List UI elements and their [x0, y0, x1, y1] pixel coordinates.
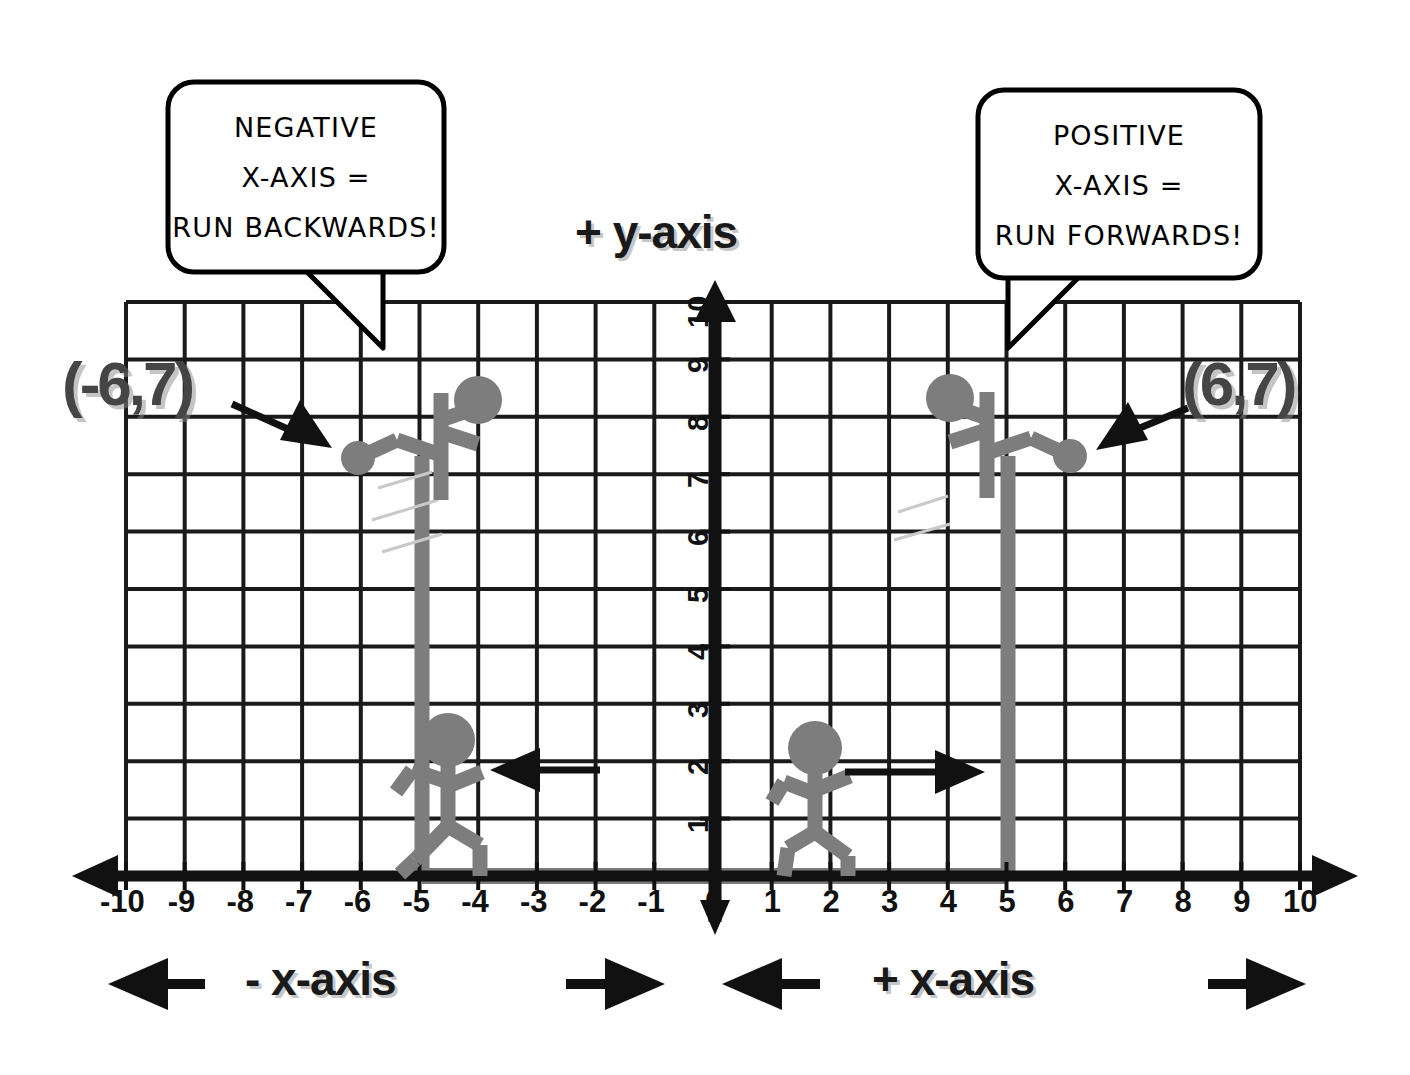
negative-x-axis-title: - x-axis — [245, 952, 396, 1006]
left-point-label: (-6,7) — [62, 348, 192, 419]
left-label-pointer-head — [280, 400, 332, 448]
y-tick-label: 10 — [682, 296, 715, 328]
x-tick-label: -5 — [403, 884, 431, 920]
x-tick-label: -9 — [168, 884, 196, 920]
y-axis-title: + y-axis — [575, 205, 737, 259]
y-tick-label: 3 — [682, 702, 715, 718]
x-tick-label: 4 — [940, 884, 957, 920]
y-tick-label: 7 — [682, 472, 715, 488]
y-tick-label: 9 — [682, 357, 715, 373]
x-tick-label: 3 — [881, 884, 898, 920]
x-tick-label: 0 — [705, 884, 722, 920]
x-tick-label: 1 — [764, 884, 781, 920]
y-tick-label: 5 — [682, 587, 715, 603]
positive-bubble[interactable]: POSITIVE X-AXIS = RUN FORWARDS! — [978, 90, 1260, 348]
x-tick-label: 10 — [1283, 884, 1317, 920]
positive-bubble-line-3: RUN FORWARDS! — [995, 220, 1244, 251]
x-tick-label: -10 — [100, 884, 145, 920]
negative-bubble[interactable]: NEGATIVE X-AXIS = RUN BACKWARDS! — [168, 82, 444, 348]
x-tick-label: 2 — [822, 884, 839, 920]
x-tick-label: -1 — [637, 884, 665, 920]
y-tick-label: 1 — [682, 816, 715, 832]
x-tick-label: -6 — [344, 884, 372, 920]
stick-figure-runner-left — [396, 713, 482, 876]
negative-bubble-tail — [303, 268, 383, 348]
y-tick-label: 6 — [682, 529, 715, 545]
stick-figure-climber-right — [894, 374, 1087, 540]
runner-left-arrowhead — [490, 748, 540, 792]
positive-x-axis-title: + x-axis — [872, 952, 1034, 1006]
negative-bubble-line-3: RUN BACKWARDS! — [172, 212, 439, 243]
bottom-left-arrow-left — [108, 958, 205, 1010]
y-tick-label: 4 — [682, 644, 715, 660]
right-point-label: (6,7) — [1182, 348, 1294, 419]
y-tick-label: 8 — [682, 415, 715, 431]
bottom-left-arrow-right — [566, 958, 665, 1010]
negative-bubble-line-1: NEGATIVE — [234, 112, 378, 143]
positive-bubble-line-1: POSITIVE — [1053, 120, 1185, 151]
y-tick-label: 2 — [682, 759, 715, 775]
runner-right-arrowhead — [935, 750, 985, 794]
x-tick-label: 7 — [1116, 884, 1133, 920]
stick-figure-runner-right — [772, 721, 850, 876]
x-tick-label: -8 — [226, 884, 254, 920]
x-tick-label: 5 — [999, 884, 1016, 920]
bottom-right-arrow-right — [1208, 958, 1306, 1010]
right-label-pointer-shaft — [1135, 408, 1188, 430]
x-tick-label: -4 — [461, 884, 489, 920]
x-tick-label: -3 — [520, 884, 548, 920]
x-tick-label: -2 — [579, 884, 607, 920]
positive-bubble-line-2: X-AXIS = — [1054, 170, 1183, 201]
x-axis-right-arrowhead — [1312, 855, 1358, 897]
diagram-canvas: NEGATIVE X-AXIS = RUN BACKWARDS! POSITIV… — [0, 0, 1410, 1075]
x-tick-label: 6 — [1057, 884, 1074, 920]
x-tick-label: 9 — [1233, 884, 1250, 920]
negative-bubble-line-2: X-AXIS = — [241, 162, 370, 193]
bottom-right-arrow-left — [722, 958, 820, 1010]
x-tick-label: -7 — [285, 884, 313, 920]
x-tick-label: 8 — [1175, 884, 1192, 920]
